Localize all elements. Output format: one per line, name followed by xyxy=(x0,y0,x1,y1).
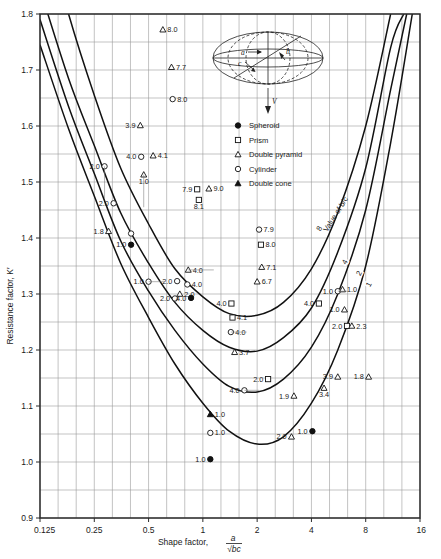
data-point-double-pyramid-3 xyxy=(137,122,143,127)
x-axis-denominator: √bc xyxy=(227,544,241,554)
diagram-label-v: V xyxy=(272,97,278,106)
y-tick-label: 1.8 xyxy=(21,9,33,19)
data-point-prism-37 xyxy=(265,377,270,382)
legend-label: Double pyramid xyxy=(249,150,302,159)
y-tick-label: 1.2 xyxy=(21,345,33,355)
y-tick-label: 1.6 xyxy=(21,121,33,131)
x-axis-numerator: a xyxy=(231,533,236,543)
x-tick-label: 4 xyxy=(309,525,314,535)
x-axis-label: Shape factor, xyxy=(158,537,208,547)
data-point-label: 7.1 xyxy=(266,263,276,272)
data-point-double-pyramid-36 xyxy=(335,374,341,379)
data-point-label: 7.9 xyxy=(182,185,192,194)
data-point-label: 1.0 xyxy=(323,287,333,296)
data-point-double-pyramid-0 xyxy=(160,27,166,32)
data-point-label: 1.9 xyxy=(279,392,289,401)
data-point-label: 7.7 xyxy=(176,63,186,72)
data-point-double-pyramid-39 xyxy=(291,393,297,398)
y-tick-label: 1.7 xyxy=(21,65,33,75)
x-tick-label: 2 xyxy=(255,525,260,535)
curve-label-bc-4: 4 xyxy=(340,258,350,266)
legend-marker-prism xyxy=(235,137,240,142)
data-point-label: 1.0 xyxy=(116,240,126,249)
curve-label-bc-1: 1 xyxy=(364,280,374,288)
data-point-label: 8.1 xyxy=(194,202,204,211)
x-tick-label: 16 xyxy=(417,525,427,535)
y-tick-label: 0.9 xyxy=(21,513,33,523)
data-point-spheroid-45 xyxy=(310,429,315,434)
data-point-label: 1.0 xyxy=(134,277,144,286)
data-point-label: 2.0 xyxy=(332,322,342,331)
data-point-cylinder-8 xyxy=(111,201,116,206)
data-point-label: 2.0 xyxy=(253,375,263,384)
legend-marker-double-cone xyxy=(235,180,241,185)
data-point-label: 4.0 xyxy=(229,386,239,395)
data-point-double-pyramid-33 xyxy=(341,307,347,312)
x-tick-label: 0.125 xyxy=(34,525,56,535)
data-point-cylinder-15 xyxy=(256,227,261,232)
chart-svg: 8.07.78.03.94.04.11.02.02.01.81.07.98.19… xyxy=(0,0,441,559)
data-point-label: 1.0 xyxy=(195,455,205,464)
data-point-double-pyramid-5 xyxy=(150,153,156,158)
data-point-label: 2.0 xyxy=(277,432,287,441)
data-point-label: 2.0 xyxy=(162,277,172,286)
curve-bc-8 xyxy=(40,0,391,316)
data-point-label: 2.0 xyxy=(90,162,100,171)
data-point-label: 8.0 xyxy=(167,25,177,34)
data-point-label: 4.0 xyxy=(192,280,202,289)
curve-bc-2 xyxy=(40,14,407,392)
data-point-prism-12 xyxy=(195,187,200,192)
x-tick-label: 1 xyxy=(200,525,205,535)
curve-label-bc-2: 2 xyxy=(354,269,364,277)
data-point-spheroid-11 xyxy=(128,242,133,247)
arrow-a-head xyxy=(257,50,262,55)
x-tick-label: 0.5 xyxy=(143,525,155,535)
data-point-label: 4.1 xyxy=(158,151,168,160)
y-tick-label: 1.4 xyxy=(21,233,33,243)
data-point-label: 2.0 xyxy=(160,294,170,303)
x-tick-label: 8 xyxy=(363,525,368,535)
data-point-label: 1.0 xyxy=(297,427,307,436)
data-point-label: 1.8 xyxy=(354,372,364,381)
ellipsoid-diagram: abcV xyxy=(213,32,323,114)
data-point-label: 8.0 xyxy=(177,95,187,104)
data-point-spheroid-46 xyxy=(208,457,213,462)
data-point-cylinder-21 xyxy=(185,282,190,287)
data-point-label: 3.9 xyxy=(125,121,135,130)
data-point-label: 4.0 xyxy=(216,299,226,308)
data-point-cylinder-10 xyxy=(128,231,133,236)
legend-label: Cylinder xyxy=(249,165,277,174)
data-point-label: 2.3 xyxy=(356,322,366,331)
data-point-label: 3.7 xyxy=(239,348,249,357)
data-point-spheroid-25 xyxy=(188,295,193,300)
data-point-double-pyramid-14 xyxy=(206,186,212,191)
x-tick-label: 0.25 xyxy=(86,525,103,535)
data-point-prism-16 xyxy=(258,242,263,247)
data-point-cylinder-2 xyxy=(170,96,175,101)
data-point-cylinder-4 xyxy=(138,154,143,159)
diagram-label-b: b xyxy=(286,47,290,56)
legend-label: Prism xyxy=(249,136,268,145)
diagram-label-c: c xyxy=(238,59,242,68)
legend-label: Spheroid xyxy=(249,121,279,130)
data-point-label: 6.7 xyxy=(262,277,272,286)
velocity-arrow xyxy=(265,106,271,114)
y-tick-label: 1.5 xyxy=(21,177,33,187)
y-tick-label: 1.1 xyxy=(21,401,33,411)
data-point-label: 1.0 xyxy=(330,305,340,314)
data-point-label: 3.9 xyxy=(323,372,333,381)
legend-marker-cylinder xyxy=(235,166,240,171)
data-point-label: 1.0 xyxy=(215,428,225,437)
data-point-label: 2.0 xyxy=(99,199,109,208)
data-point-cylinder-22 xyxy=(174,278,179,283)
grid-lines xyxy=(40,14,420,518)
y-tick-label: 1.0 xyxy=(21,457,33,467)
data-point-label: 3.4 xyxy=(319,390,329,399)
data-point-label: 8.0 xyxy=(265,240,275,249)
data-point-label: 4.0 xyxy=(176,294,186,303)
y-tick-label: 1.3 xyxy=(21,289,33,299)
data-point-label: 7.9 xyxy=(264,225,274,234)
data-point-double-pyramid-18 xyxy=(254,279,260,284)
data-point-cylinder-43 xyxy=(208,430,213,435)
data-point-label: 1.0 xyxy=(215,410,225,419)
